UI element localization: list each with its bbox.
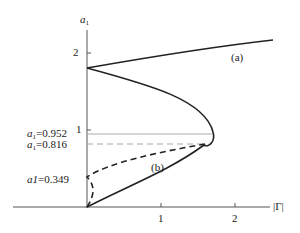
curve-a <box>87 40 273 68</box>
ref3-var: a1 <box>27 173 38 185</box>
curve-a-label: (a) <box>231 52 243 63</box>
ref2-val: =0.816 <box>36 138 67 150</box>
x-tick-label-2: 2 <box>232 213 238 224</box>
x-axis-label: |Γ| <box>273 201 284 212</box>
y-axis-sub: 1 <box>86 19 90 27</box>
ref-label-0349: a1=0.349 <box>27 174 69 185</box>
y-axis-label: a1 <box>80 14 89 27</box>
x-tick-label-1: 1 <box>158 213 164 224</box>
curve-b <box>87 68 214 207</box>
y-tick-label-1: 1 <box>76 124 82 135</box>
ref-label-0816: a1=0.816 <box>27 139 67 152</box>
y-tick-label-2: 2 <box>73 47 79 58</box>
chart-canvas <box>0 0 300 233</box>
curve-b-label: (b) <box>151 162 164 173</box>
ref3-val: =0.349 <box>38 173 69 185</box>
